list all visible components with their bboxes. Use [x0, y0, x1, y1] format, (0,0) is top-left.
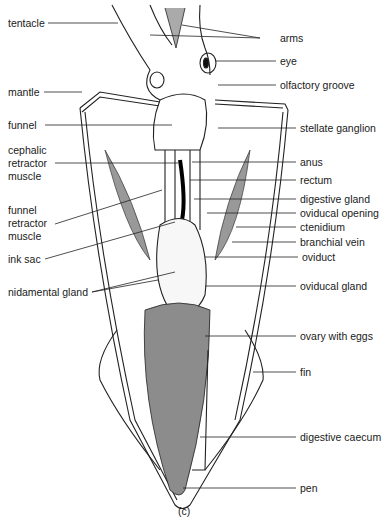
- label-ink-sac: ink sac: [8, 253, 41, 266]
- label-oviducal-gland: oviducal gland: [300, 280, 367, 293]
- label-mantle: mantle: [8, 86, 40, 99]
- figure-caption: (c): [178, 505, 190, 518]
- label-rectum: rectum: [300, 174, 332, 187]
- label-arms: arms: [280, 32, 303, 45]
- label-ovary-with-eggs: ovary with eggs: [300, 330, 373, 343]
- squid-anatomy-diagram: tentaclemantlefunnelcephalic retractor m…: [0, 0, 382, 530]
- label-cephalic-retractor-muscle: cephalic retractor muscle: [8, 144, 47, 183]
- label-olfactory-groove: olfactory groove: [280, 79, 355, 92]
- label-fin: fin: [300, 366, 311, 379]
- label-funnel-retractor-muscle: funnel retractor muscle: [8, 204, 47, 243]
- label-branchial-vein: branchial vein: [300, 236, 365, 249]
- label-oviduct: oviduct: [302, 251, 335, 264]
- label-digestive-gland: digestive gland: [300, 193, 370, 206]
- label-digestive-caecum: digestive caecum: [300, 431, 381, 444]
- label-ctenidium: ctenidium: [300, 221, 345, 234]
- label-stellate-ganglion: stellate ganglion: [300, 122, 376, 135]
- label-oviducal-opening: oviducal opening: [300, 207, 379, 220]
- label-nidamental-gland: nidamental gland: [8, 286, 88, 299]
- label-anus: anus: [300, 156, 323, 169]
- label-funnel: funnel: [8, 119, 37, 132]
- label-eye: eye: [280, 55, 297, 68]
- label-tentacle: tentacle: [8, 17, 45, 30]
- label-pen: pen: [300, 482, 318, 495]
